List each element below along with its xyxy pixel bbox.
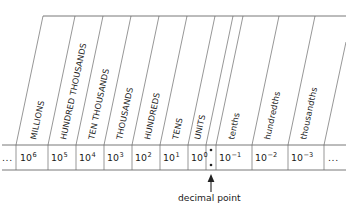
place-value-chart: MILLIONS HUNDRED THOUSANDS TEN THOUSANDS… <box>0 0 346 209</box>
cell-power-tenths: 10−1 <box>219 152 241 163</box>
decimal-point-arrow <box>208 174 215 192</box>
power-base: 10 <box>291 152 303 163</box>
power-base: 10 <box>191 152 203 163</box>
power-base: 10 <box>163 152 175 163</box>
chart-rules: MILLIONS HUNDRED THOUSANDS TEN THOUSANDS… <box>0 0 346 209</box>
power-exponent: 2 <box>147 151 151 159</box>
power-exponent: 5 <box>63 151 67 159</box>
power-exponent: −3 <box>303 151 313 159</box>
power-base: 10 <box>79 152 91 163</box>
cell-power-units: 100 <box>191 152 208 163</box>
cell-power-tens: 101 <box>163 152 180 163</box>
cell-power-thousandths: 10−3 <box>291 152 313 163</box>
cell-power-hundredths: 10−2 <box>255 152 277 163</box>
power-base: 10 <box>20 152 32 163</box>
column-label-thousands: THOUSANDS <box>114 86 135 141</box>
power-exponent: 0 <box>203 151 207 159</box>
column-label-hundred-thousands: HUNDRED THOUSANDS <box>58 42 88 140</box>
cell-power-hundred-thousands: 105 <box>51 152 68 163</box>
column-label-hundredths: hundredths <box>262 90 282 140</box>
power-base: 10 <box>135 152 147 163</box>
cell-left-ellipsis: ... <box>2 152 13 163</box>
power-exponent: 3 <box>119 151 123 159</box>
power-exponent: −1 <box>231 151 241 159</box>
power-base: 10 <box>51 152 63 163</box>
column-label-tens: TENS <box>170 117 185 141</box>
power-exponent: 6 <box>32 151 36 159</box>
power-base: 10 <box>219 152 231 163</box>
cell-power-millions: 106 <box>20 152 37 163</box>
column-label-hundreds: HUNDREDS <box>142 92 162 141</box>
cell-power-hundreds: 102 <box>135 152 152 163</box>
power-base: 10 <box>107 152 119 163</box>
column-labels: MILLIONS HUNDRED THOUSANDS TEN THOUSANDS… <box>28 42 319 141</box>
decimal-point-caption: decimal point <box>178 192 241 203</box>
power-base: 10 <box>255 152 267 163</box>
cell-power-thousands: 103 <box>107 152 124 163</box>
column-label-thousandths: thousandths <box>298 86 319 140</box>
column-label-tenths: tenths <box>226 112 241 141</box>
column-label-millions: MILLIONS <box>28 100 46 141</box>
power-exponent: 4 <box>91 151 95 159</box>
power-exponent: 1 <box>175 151 179 159</box>
cell-power-ten-thousands: 104 <box>79 152 96 163</box>
decimal-point-marker <box>210 149 213 167</box>
power-exponent: −2 <box>267 151 277 159</box>
cell-right-ellipsis: ... <box>328 152 339 163</box>
column-label-units: UNITS <box>192 114 207 141</box>
